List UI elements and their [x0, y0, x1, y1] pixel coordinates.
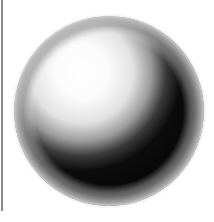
sphere-illustration [0, 0, 214, 222]
sphere-reflected-light [14, 16, 204, 206]
sphere-graphic [0, 0, 214, 222]
